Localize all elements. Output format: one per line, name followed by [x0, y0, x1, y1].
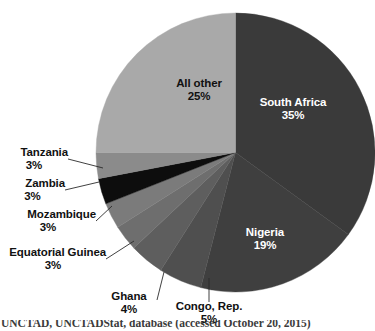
pie-chart-figure: South Africa 35% Nigeria 19% All other 2… — [0, 0, 375, 331]
leader-line-mozambique — [96, 206, 112, 221]
slice-label-tanzania: Tanzania 3% — [0, 146, 68, 172]
leader-line-ghana — [157, 272, 164, 300]
slice-label-zambia: Zambia 3% — [0, 177, 65, 203]
slice-label-ghana-name: Ghana — [103, 290, 155, 303]
slice-label-zambia-percent: 3% — [0, 190, 65, 203]
leader-line-equatorial-guinea — [106, 241, 134, 259]
slice-label-mozambique-name: Mozambique — [0, 208, 96, 221]
slice-label-congo-rep-name: Congo, Rep. — [161, 300, 257, 313]
slice-label-nigeria-name: Nigeria — [229, 226, 301, 239]
slice-label-south-africa-percent: 35% — [247, 109, 339, 122]
source-caption-text: UNCTAD, UNCTADStat, database (accessed O… — [1, 320, 311, 329]
slice-label-all-other-percent: 25% — [156, 90, 242, 103]
slice-label-nigeria: Nigeria 19% — [229, 226, 301, 252]
slice-label-ghana: Ghana 4% — [103, 290, 155, 316]
slice-label-ghana-percent: 4% — [103, 303, 155, 316]
slice-label-mozambique-percent: 3% — [0, 221, 96, 234]
slice-label-nigeria-percent: 19% — [229, 239, 301, 252]
slice-label-equatorial-guinea-percent: 3% — [0, 259, 106, 272]
slice-label-south-africa-name: South Africa — [247, 96, 339, 109]
leader-line-zambia — [65, 182, 99, 190]
slice-label-equatorial-guinea-name: Equatorial Guinea — [0, 246, 106, 259]
slice-label-all-other-name: All other — [156, 77, 242, 90]
source-caption-strip: UNCTAD, UNCTADStat, database (accessed O… — [0, 320, 375, 331]
slice-label-south-africa: South Africa 35% — [247, 96, 339, 122]
slice-label-all-other: All other 25% — [156, 77, 242, 103]
slice-label-zambia-name: Zambia — [0, 177, 65, 190]
slice-label-tanzania-name: Tanzania — [0, 146, 68, 159]
slice-label-mozambique: Mozambique 3% — [0, 208, 96, 234]
slice-label-tanzania-percent: 3% — [0, 159, 68, 172]
slice-label-equatorial-guinea: Equatorial Guinea 3% — [0, 246, 106, 272]
